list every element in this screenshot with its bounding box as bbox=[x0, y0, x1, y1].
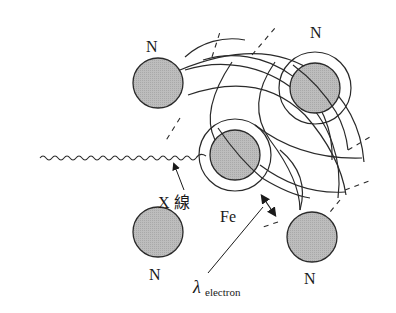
atom-circle bbox=[133, 58, 183, 108]
atom-n-bottom-right bbox=[287, 212, 337, 262]
wavefront-dashed-extensions bbox=[165, 28, 372, 228]
label-xray: X 線 bbox=[158, 194, 190, 211]
xray-pointer-arrow bbox=[174, 164, 184, 190]
atom-n-top-right bbox=[279, 52, 351, 124]
wavefront-v-1 bbox=[210, 62, 232, 140]
label-lambda-subscript: electron bbox=[205, 286, 241, 298]
atom-circle bbox=[133, 207, 183, 257]
atom-n-top-left bbox=[133, 58, 183, 108]
dash-right-1 bbox=[348, 137, 370, 150]
atom-circle bbox=[287, 212, 337, 262]
xray-wave bbox=[40, 154, 206, 160]
label-n-top-left: N bbox=[146, 38, 158, 55]
dash-bottom-1 bbox=[330, 200, 340, 212]
atom-n-bottom-left bbox=[133, 207, 183, 257]
label-fe: Fe bbox=[220, 208, 236, 225]
dash-right-2 bbox=[345, 180, 372, 190]
atom-fe-center bbox=[199, 119, 271, 191]
electron-diffraction-diagram: N N Fe N N X 線 λ electron bbox=[0, 0, 396, 313]
dash-top-1 bbox=[212, 32, 220, 57]
dash-top-2 bbox=[252, 28, 275, 55]
label-n-bottom-right: N bbox=[304, 270, 316, 287]
atom-circle bbox=[210, 130, 260, 180]
dash-bottom-2 bbox=[260, 222, 278, 228]
label-n-top-right: N bbox=[310, 24, 322, 41]
label-lambda: λ bbox=[192, 277, 201, 297]
label-n-bottom-left: N bbox=[149, 266, 161, 283]
wavelength-double-arrow bbox=[262, 196, 275, 215]
dash-left bbox=[165, 118, 180, 142]
wavefront-outer-1 bbox=[180, 54, 364, 162]
